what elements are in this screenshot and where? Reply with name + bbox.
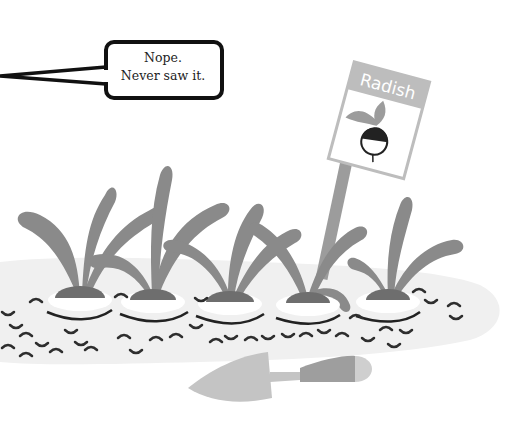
- speech-line-2: Never saw it.: [104, 67, 222, 85]
- illustration: Radish: [0, 0, 510, 438]
- speech-bubble-text: Nope. Never saw it.: [104, 49, 222, 85]
- garden-scene: Radish: [0, 0, 510, 438]
- speech-line-1: Nope.: [104, 49, 222, 67]
